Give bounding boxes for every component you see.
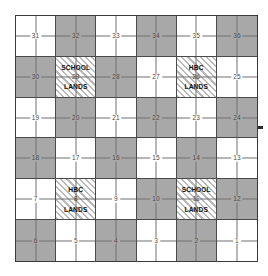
section-cell-5: 5 xyxy=(56,220,96,261)
section-number-label: 31 xyxy=(30,33,41,40)
section-number-label: 21 xyxy=(110,114,121,121)
section-cell-27: 27 xyxy=(137,57,177,98)
section-number-label: 6 xyxy=(32,237,40,244)
section-cell-26: HBCLANDS26 xyxy=(177,57,217,98)
section-number-label: 26 xyxy=(191,73,202,80)
section-number-label: 16 xyxy=(110,155,121,162)
reserve-label-bottom: LANDS xyxy=(177,83,216,90)
section-number-label: 1 xyxy=(233,237,241,244)
section-number-label: 29 xyxy=(70,73,81,80)
township-section-grid: 31323334353630SCHOOLLANDS292827HBCLANDS2… xyxy=(15,15,258,262)
section-cell-32: 32 xyxy=(56,16,96,57)
section-cell-7: 7 xyxy=(16,179,56,220)
section-cell-22: 22 xyxy=(137,98,177,139)
section-cell-15: 15 xyxy=(137,138,177,179)
section-cell-8: HBCLANDS8 xyxy=(56,179,96,220)
reserve-label-top: HBC xyxy=(177,64,216,71)
section-cell-1: 1 xyxy=(217,220,257,261)
section-cell-16: 16 xyxy=(96,138,136,179)
section-number-label: 28 xyxy=(110,73,121,80)
section-cell-17: 17 xyxy=(56,138,96,179)
section-cell-3: 3 xyxy=(137,220,177,261)
section-cell-6: 6 xyxy=(16,220,56,261)
section-cell-11: SCHOOLLANDS11 xyxy=(177,179,217,220)
section-cell-34: 34 xyxy=(137,16,177,57)
section-number-label: 32 xyxy=(70,33,81,40)
section-number-label: 34 xyxy=(150,33,161,40)
section-cell-19: 19 xyxy=(16,98,56,139)
section-number-label: 7 xyxy=(32,196,40,203)
section-number-label: 15 xyxy=(150,155,161,162)
township-survey-figure: 31323334353630SCHOOLLANDS292827HBCLANDS2… xyxy=(0,0,268,276)
section-cell-33: 33 xyxy=(96,16,136,57)
section-number-label: 14 xyxy=(191,155,202,162)
section-number-label: 22 xyxy=(150,114,161,121)
section-cell-24: 24 xyxy=(217,98,257,139)
section-cell-10: 10 xyxy=(137,179,177,220)
section-number-label: 5 xyxy=(72,237,80,244)
section-number-label: 23 xyxy=(191,114,202,121)
section-number-label: 19 xyxy=(30,114,41,121)
section-cell-29: SCHOOLLANDS29 xyxy=(56,57,96,98)
section-number-label: 33 xyxy=(110,33,121,40)
reserve-label-bottom: LANDS xyxy=(177,206,216,213)
section-number-label: 35 xyxy=(191,33,202,40)
section-cell-36: 36 xyxy=(217,16,257,57)
section-number-label: 9 xyxy=(112,196,120,203)
section-cell-28: 28 xyxy=(96,57,136,98)
section-number-label: 25 xyxy=(231,73,242,80)
section-number-label: 4 xyxy=(112,237,120,244)
section-cell-18: 18 xyxy=(16,138,56,179)
section-cell-12: 12 xyxy=(217,179,257,220)
section-number-label: 12 xyxy=(231,196,242,203)
section-cell-35: 35 xyxy=(177,16,217,57)
section-cell-9: 9 xyxy=(96,179,136,220)
section-cell-13: 13 xyxy=(217,138,257,179)
section-cell-21: 21 xyxy=(96,98,136,139)
section-cell-2: 2 xyxy=(177,220,217,261)
section-number-label: 3 xyxy=(152,237,160,244)
section-number-label: 17 xyxy=(70,155,81,162)
section-cell-14: 14 xyxy=(177,138,217,179)
section-number-label: 27 xyxy=(150,73,161,80)
section-number-label: 36 xyxy=(231,33,242,40)
right-edge-tick-mark xyxy=(258,126,263,129)
section-cell-20: 20 xyxy=(56,98,96,139)
section-number-label: 11 xyxy=(191,196,202,203)
section-cell-30: 30 xyxy=(16,57,56,98)
reserve-label-bottom: LANDS xyxy=(56,83,95,90)
section-cell-4: 4 xyxy=(96,220,136,261)
section-cell-31: 31 xyxy=(16,16,56,57)
section-number-label: 8 xyxy=(72,196,80,203)
section-number-label: 20 xyxy=(70,114,81,121)
section-cell-25: 25 xyxy=(217,57,257,98)
section-number-label: 30 xyxy=(30,73,41,80)
section-number-label: 18 xyxy=(30,155,41,162)
section-number-label: 24 xyxy=(231,114,242,121)
section-number-label: 2 xyxy=(192,237,200,244)
section-number-label: 13 xyxy=(231,155,242,162)
reserve-label-bottom: LANDS xyxy=(56,206,95,213)
reserve-label-top: SCHOOL xyxy=(56,64,95,71)
section-cell-23: 23 xyxy=(177,98,217,139)
reserve-label-top: SCHOOL xyxy=(177,186,216,193)
section-number-label: 10 xyxy=(150,196,161,203)
reserve-label-top: HBC xyxy=(56,186,95,193)
